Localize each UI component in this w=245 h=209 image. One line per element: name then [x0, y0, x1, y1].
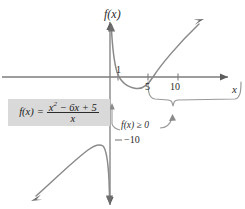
x-axis	[2, 73, 228, 80]
formula-lhs: f(x)	[19, 107, 34, 118]
formula-denominator: x	[69, 113, 78, 124]
y-axis-label: f(x)	[104, 8, 121, 20]
x-tick-label-1: 1	[116, 65, 121, 75]
formula-box: f(x) = x2 − 6x + 5 x	[8, 99, 110, 126]
interval-marker-near-origin	[109, 103, 120, 130]
formula-equals: =	[37, 107, 44, 118]
y-tick-label-neg10: −10	[124, 135, 140, 145]
x-tick-label-5: 5	[145, 82, 150, 92]
annotation-pointer	[160, 114, 176, 128]
formula-expression: f(x) = x2 − 6x + 5 x	[19, 101, 99, 125]
solution-interval-brace	[148, 82, 241, 106]
curve-left-branch	[31, 145, 113, 204]
x-axis-label: x	[232, 84, 237, 95]
formula-fraction: x2 − 6x + 5 x	[47, 101, 99, 125]
x-tick-label-10: 10	[170, 82, 180, 92]
formula-num-exponent: 2	[54, 100, 58, 108]
formula-num-b: − 6x + 5	[60, 101, 97, 112]
curve-right-branch	[108, 19, 204, 89]
inequality-annotation: f(x) ≥ 0	[121, 121, 149, 131]
formula-numerator: x2 − 6x + 5	[47, 101, 99, 113]
